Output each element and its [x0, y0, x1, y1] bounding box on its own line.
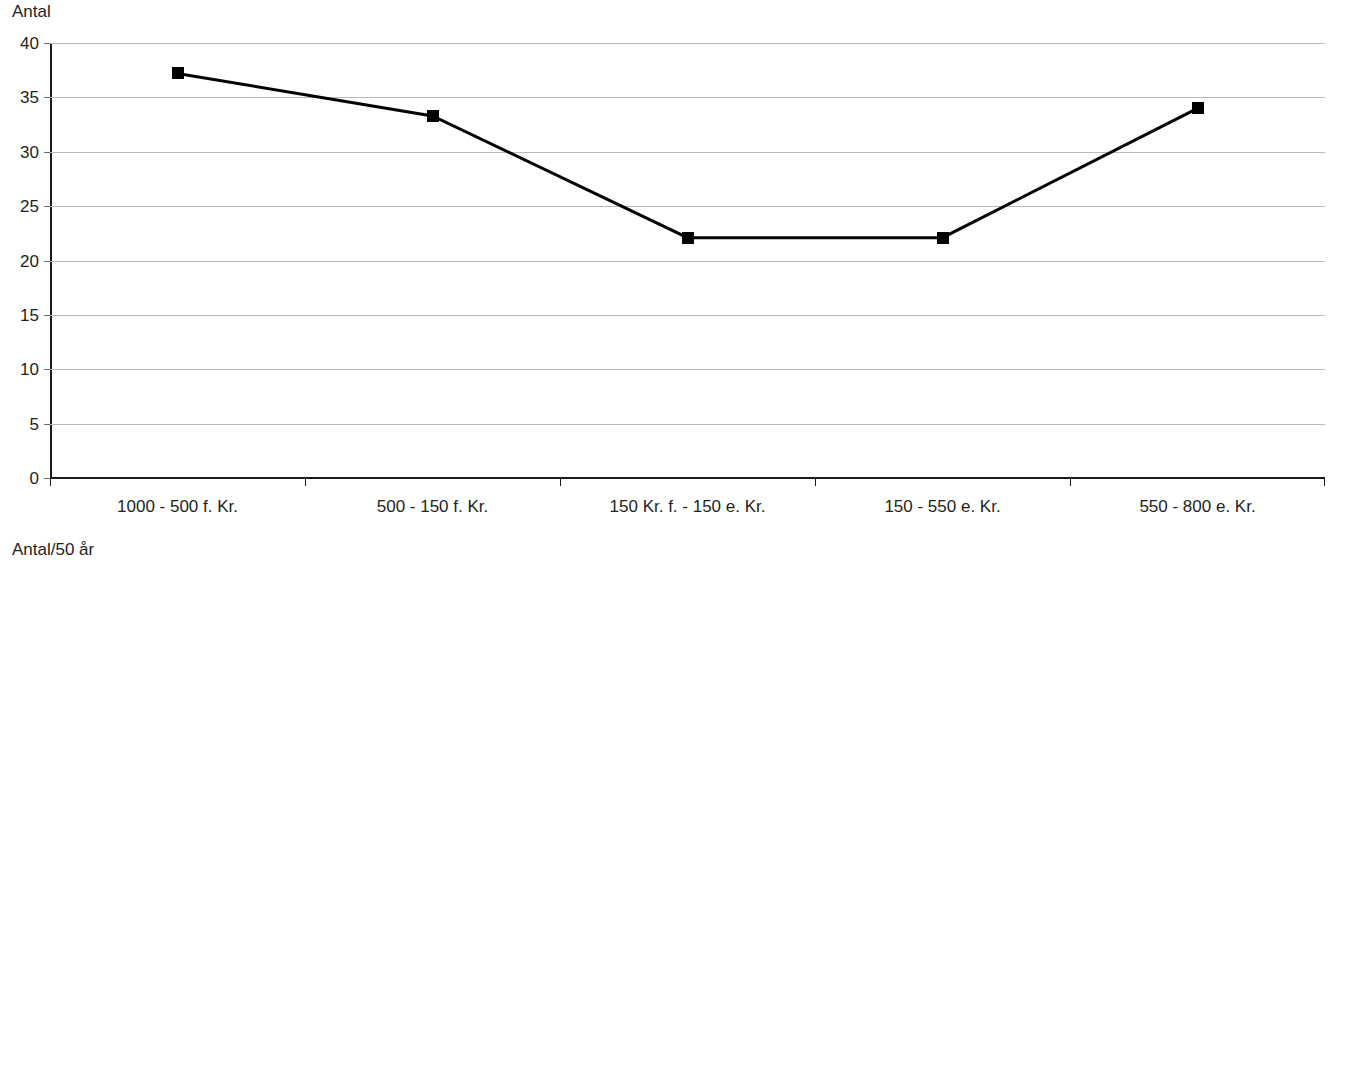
- series-line: [50, 43, 1325, 478]
- x-axis-label: 1000 - 500 f. Kr.: [117, 497, 238, 517]
- data-point-marker: [1192, 102, 1204, 114]
- data-point-marker: [427, 110, 439, 122]
- y-axis-tick-label: 0: [0, 470, 39, 487]
- chart-page: Antal 4035302520151050 1000 - 500 f. Kr.…: [0, 0, 1350, 1081]
- x-axis-tick-mark: [50, 477, 51, 486]
- x-axis-label: 550 - 800 e. Kr.: [1139, 497, 1255, 517]
- chart-antal: Antal 4035302520151050 1000 - 500 f. Kr.…: [0, 0, 1350, 535]
- x-axis-tick-mark: [560, 477, 561, 486]
- chart-antal-per-50-ar: Antal/50 år 876543210 1000 - 500 f. Kr.5…: [0, 535, 1350, 1081]
- y-axis-tick-label: 10: [0, 361, 39, 378]
- y-axis-tick-label: 15: [0, 306, 39, 323]
- y-axis-tick-label: 40: [0, 35, 39, 52]
- x-axis-label: 150 - 550 e. Kr.: [884, 497, 1000, 517]
- y-axis-tick-label: 35: [0, 89, 39, 106]
- y-axis-tick-label: 30: [0, 143, 39, 160]
- data-point-marker: [937, 232, 949, 244]
- x-axis-tick-mark: [305, 477, 306, 486]
- chart-antal-per-50-ar-axis-title: Antal/50 år: [12, 540, 94, 560]
- x-axis-tick-mark: [1324, 477, 1325, 486]
- chart-antal-plot-area: 4035302520151050: [50, 43, 1325, 478]
- x-axis-label: 500 - 150 f. Kr.: [377, 497, 489, 517]
- y-axis-tick-label: 20: [0, 252, 39, 269]
- data-point-marker: [172, 67, 184, 79]
- x-axis-label: 150 Kr. f. - 150 e. Kr.: [610, 497, 766, 517]
- x-axis-tick-mark: [1070, 477, 1071, 486]
- data-point-marker: [682, 232, 694, 244]
- y-axis-tick-label: 5: [0, 415, 39, 432]
- chart-antal-axis-title: Antal: [12, 2, 51, 22]
- x-axis-tick-mark: [815, 477, 816, 486]
- y-axis-tick-label: 25: [0, 198, 39, 215]
